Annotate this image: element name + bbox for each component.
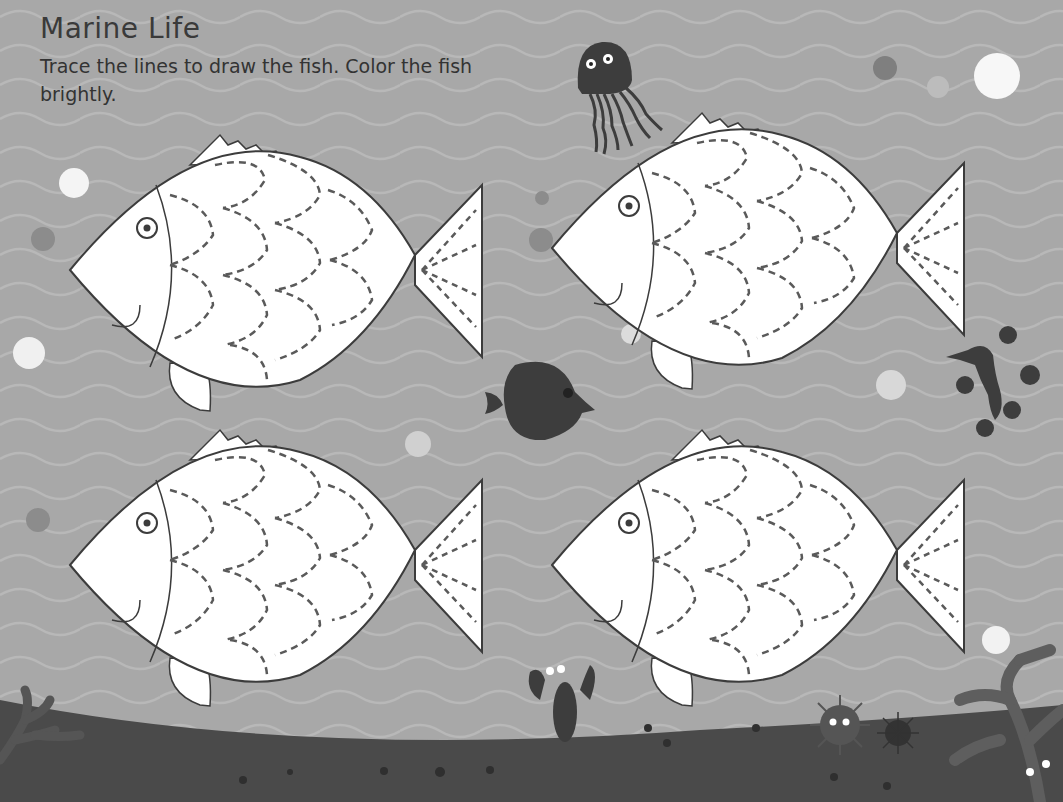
sea-dragon (946, 326, 1040, 437)
tracing-fish-bottom-left (70, 430, 482, 706)
small-urchin (877, 712, 919, 754)
lobster (529, 665, 595, 742)
seabed (0, 700, 1063, 802)
worksheet-page: Marine Life Trace the lines to draw the … (0, 0, 1063, 802)
sea-urchin (810, 695, 870, 755)
round-fish (485, 362, 595, 440)
tracing-fish-top-left (70, 135, 482, 411)
tracing-fish-bottom-right (552, 430, 964, 706)
jellyfish (578, 42, 662, 154)
tracing-fish-top-right (552, 113, 964, 389)
